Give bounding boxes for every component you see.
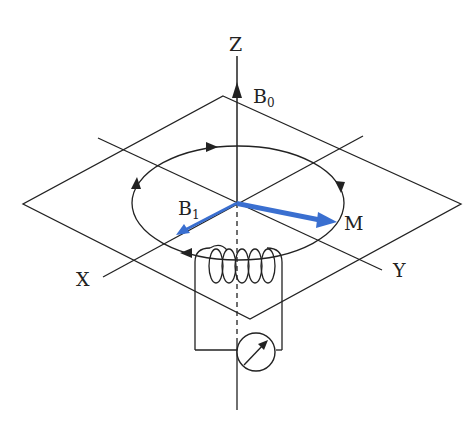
m-arrow-icon [316, 212, 337, 228]
m-vector [237, 201, 323, 223]
x-axis-label: X [76, 268, 90, 290]
b0-label: B0 [253, 85, 275, 110]
magnetization-label: M [344, 212, 363, 234]
precession-arrow-top [206, 142, 218, 152]
precession-arrow-right [335, 181, 345, 193]
nmr-diagram: Z X Y B0 B1 M [0, 0, 475, 427]
precession-arrow-bottom [180, 248, 192, 258]
b0-arrow-icon [232, 82, 242, 98]
y-axis-label: Y [392, 259, 406, 281]
meter-icon [237, 333, 275, 371]
z-axis-label: Z [229, 33, 242, 55]
b1-label: B1 [178, 197, 200, 222]
